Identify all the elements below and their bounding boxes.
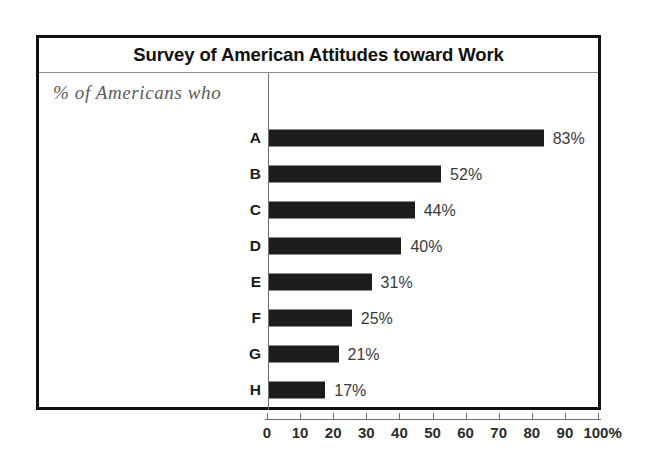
bar-category-label: H — [250, 381, 261, 399]
x-axis-tick-label: 40 — [391, 424, 408, 441]
chart-title: Survey of American Attitudes toward Work — [133, 44, 504, 66]
bar-value-label: 25% — [361, 309, 393, 327]
bar-wrapper: 83% — [269, 130, 585, 147]
bar-value-label: 17% — [334, 381, 366, 399]
bar-category-label: F — [252, 309, 261, 327]
bar — [269, 310, 352, 327]
bar-row: D40% — [39, 228, 598, 264]
bar-wrapper: 52% — [269, 166, 482, 183]
bar-value-label: 52% — [450, 165, 482, 183]
x-axis-tick — [333, 413, 334, 420]
bar — [269, 238, 401, 255]
bar-wrapper: 40% — [269, 238, 442, 255]
bar — [269, 202, 415, 219]
x-axis-tick — [300, 413, 301, 420]
x-axis-tick-label: 0 — [263, 424, 271, 441]
x-axis: 0102030405060708090100% — [265, 417, 601, 457]
bar-category-label: E — [251, 273, 261, 291]
plot-area: % of Americans who A83%B52%C44%D40%E31%F… — [39, 73, 598, 407]
bar — [269, 166, 441, 183]
x-axis-tick — [399, 413, 400, 420]
x-axis-tick-label: 90 — [557, 424, 574, 441]
bar — [269, 382, 325, 399]
bar-wrapper: 21% — [269, 346, 380, 363]
bar-wrapper: 17% — [269, 382, 366, 399]
bar — [269, 130, 544, 147]
bar-wrapper: 31% — [269, 274, 413, 291]
bar-category-label: A — [250, 129, 261, 147]
title-band: Survey of American Attitudes toward Work — [39, 38, 598, 73]
x-axis-tick — [366, 413, 367, 420]
x-axis-tick — [499, 413, 500, 420]
bar-category-label: C — [250, 201, 261, 219]
x-axis-tick-label: 80 — [523, 424, 540, 441]
bar — [269, 274, 372, 291]
bar-category-label: D — [250, 237, 261, 255]
bar-wrapper: 44% — [269, 202, 456, 219]
x-axis-tick — [598, 413, 599, 420]
bar-row: A83% — [39, 120, 598, 156]
bar-row: B52% — [39, 156, 598, 192]
bar-value-label: 21% — [348, 345, 380, 363]
x-axis-tick-label: 20 — [325, 424, 342, 441]
bar-category-label: B — [250, 165, 261, 183]
bar-row: E31% — [39, 264, 598, 300]
bar-value-label: 40% — [410, 237, 442, 255]
x-axis-tick-label: 60 — [457, 424, 474, 441]
x-axis-tick — [532, 413, 533, 420]
bar-row: H17% — [39, 372, 598, 408]
x-axis-tick-label: 10 — [292, 424, 309, 441]
x-axis-tick — [267, 413, 268, 420]
chart-subtitle: % of Americans who — [53, 82, 263, 104]
bar-wrapper: 25% — [269, 310, 393, 327]
bar-row: G21% — [39, 336, 598, 372]
bar-value-label: 83% — [553, 129, 585, 147]
bar — [269, 346, 339, 363]
bar-chart-figure: Survey of American Attitudes toward Work… — [0, 0, 654, 473]
bar-series: A83%B52%C44%D40%E31%F25%G21%H17% — [39, 120, 598, 408]
x-axis-tick — [565, 413, 566, 420]
x-axis-tick — [433, 413, 434, 420]
bar-category-label: G — [249, 345, 261, 363]
x-axis-tick — [466, 413, 467, 420]
bar-value-label: 44% — [424, 201, 456, 219]
x-axis-tick-label: 30 — [358, 424, 375, 441]
x-axis-tick-label: 70 — [490, 424, 507, 441]
x-axis-tick-label: 50 — [424, 424, 441, 441]
chart-frame: Survey of American Attitudes toward Work… — [36, 35, 601, 410]
bar-row: F25% — [39, 300, 598, 336]
bar-row: C44% — [39, 192, 598, 228]
bar-value-label: 31% — [381, 273, 413, 291]
x-axis-tick-label: 100% — [583, 424, 621, 441]
